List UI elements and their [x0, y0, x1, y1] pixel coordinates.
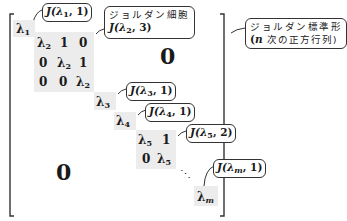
entry-lambda-3: λ3: [96, 95, 110, 112]
subscript: 1: [24, 27, 30, 37]
jordan-cell-label: ジョルダン細胞: [109, 9, 190, 21]
callout-text: J(λ: [149, 105, 166, 117]
entry-b5-r2c1: 0: [142, 152, 150, 166]
leader-normal-form: [231, 28, 245, 33]
leader-j3: [118, 89, 126, 94]
right-bracket: [220, 14, 224, 216]
callout-text: J(λ: [130, 84, 147, 96]
entry-lambda-1: λ1: [16, 22, 30, 39]
subscript: 5: [146, 138, 152, 148]
entry-b5-r1c2: 1: [162, 133, 170, 147]
subscript: 4: [124, 119, 130, 129]
entry-b2-r3c1: 0: [39, 75, 47, 89]
callout-jordan-cell: ジョルダン細胞 J(λ2, 3): [104, 6, 195, 39]
callout-j4: J(λ4, 1): [145, 103, 195, 122]
callout-j3: J(λ3, 1): [126, 82, 176, 101]
lower-zero-region: 0: [56, 160, 71, 184]
normal-form-description: 次の正方行列): [263, 34, 338, 45]
entry-b2-r2c3: 1: [79, 56, 87, 70]
left-bracket: [10, 14, 14, 216]
entry-b2-r3c3: λ2: [76, 75, 90, 92]
callout-j5: J(λ5, 2): [186, 124, 236, 143]
subscript: m: [234, 165, 242, 175]
entry-b2-r2c2: λ2: [57, 56, 71, 73]
callout-text: , 1): [153, 84, 173, 96]
upper-zero-region: 0: [160, 44, 175, 68]
callout-text: , 2): [213, 126, 233, 138]
entry-b2-r1c3: 0: [79, 36, 87, 50]
entry-b2-r2c1: 0: [39, 56, 47, 70]
subscript: 3: [104, 100, 110, 110]
matrix-size-variable: n: [255, 33, 263, 45]
diagonal-ellipsis: ⋱: [180, 168, 191, 182]
callout-text: , 1): [172, 105, 192, 117]
entry-lambda-4: λ4: [116, 114, 130, 131]
callout-text: J(λ: [46, 5, 63, 17]
entry-b5-r2c2: λ5: [157, 152, 171, 169]
callout-text: J(λ: [190, 126, 207, 138]
subscript: 2: [45, 41, 51, 51]
entry-b2-r1c2: 1: [60, 36, 68, 50]
leader-j5: [178, 131, 186, 136]
callout-text: J(λ: [217, 161, 234, 173]
entry-b5-r1c1: λ5: [138, 133, 152, 150]
callout-jm: J(λm, 1): [213, 159, 266, 178]
subscript: 2: [65, 61, 71, 71]
callout-text: , 1): [69, 5, 89, 17]
normal-form-label: ジョルダン標準形: [250, 21, 342, 33]
callout-text: , 1): [243, 161, 263, 173]
entry-b2-r3c2: 0: [59, 75, 67, 89]
leader-j2: [96, 29, 104, 34]
subscript: 5: [165, 157, 171, 167]
entry-lambda-m: λm: [197, 190, 214, 207]
callout-text: , 3): [132, 21, 152, 33]
callout-jordan-normal-form: ジョルダン標準形 (n 次の正方行列): [245, 18, 347, 49]
callout-text: J(λ: [109, 21, 126, 33]
callout-j1: J(λ1, 1): [42, 3, 92, 22]
subscript: 2: [84, 80, 90, 90]
entry-b2-r1c1: λ2: [37, 36, 51, 53]
subscript: m: [205, 195, 213, 205]
